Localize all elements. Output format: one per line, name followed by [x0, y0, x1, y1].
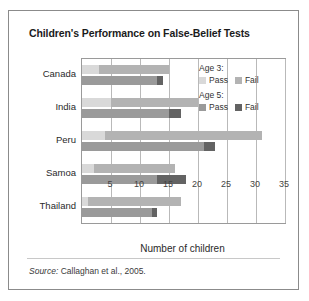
legend-label-age3-pass: Pass — [209, 75, 228, 85]
legend-swatch-age5-fail — [235, 104, 242, 111]
legend-item-age5-pass: Pass — [199, 102, 228, 112]
bar-segment-india-age5-pass — [82, 109, 169, 118]
bar-segment-canada-age3-fail — [99, 65, 169, 74]
x-axis-title: Number of children — [81, 243, 284, 254]
bar-segment-peru-age5-fail — [204, 142, 216, 151]
legend-item-age5-fail: Fail — [235, 102, 259, 112]
legend-group-age5: Age 5: Pass Fail — [199, 90, 266, 112]
legend-row-age3: Pass Fail — [199, 75, 266, 85]
category-label-india: India — [55, 101, 76, 112]
bar-segment-samoa-age5-pass — [82, 175, 157, 184]
x-tick-label-30: 30 — [250, 179, 260, 189]
source-note: Source: Callaghan et al., 2005. — [29, 266, 146, 276]
legend-swatch-age3-fail — [235, 77, 242, 84]
legend-heading-age5: Age 5: — [199, 90, 266, 100]
legend-item-age3-fail: Fail — [235, 75, 259, 85]
bar-segment-peru-age3-pass — [82, 131, 105, 140]
bar-segment-india-age3-pass — [82, 98, 111, 107]
bar-segment-canada-age3-pass — [82, 65, 99, 74]
x-tick-label-15: 15 — [163, 179, 173, 189]
legend-label-age3-fail: Fail — [245, 75, 259, 85]
legend-heading-age3: Age 3: — [199, 63, 266, 73]
category-label-thailand: Thailand — [40, 200, 76, 211]
plot-wrapper: Canada India Peru Samoa Thailand 5101520… — [9, 11, 300, 291]
legend-swatch-age3-pass — [199, 77, 206, 84]
legend-group-age3: Age 3: Pass Fail — [199, 63, 266, 85]
bar-segment-india-age5-fail — [169, 109, 181, 118]
bar-segment-india-age3-fail — [111, 98, 198, 107]
bar-segment-thailand-age5-fail — [152, 208, 158, 217]
category-label-canada: Canada — [43, 68, 76, 79]
x-tick-label-25: 25 — [221, 179, 231, 189]
bar-segment-canada-age5-pass — [82, 76, 157, 85]
category-label-peru: Peru — [56, 134, 76, 145]
legend-label-age5-pass: Pass — [209, 102, 228, 112]
chart-legend: Age 3: Pass Fail Age 5: — [199, 63, 266, 117]
bar-segment-samoa-age3-pass — [82, 164, 94, 173]
source-prefix: Source: — [29, 266, 58, 276]
legend-swatch-age5-pass — [199, 104, 206, 111]
x-tick-label-10: 10 — [134, 179, 144, 189]
bar-segment-peru-age5-pass — [82, 142, 204, 151]
bar-segment-peru-age3-fail — [105, 131, 262, 140]
legend-label-age5-fail: Fail — [245, 102, 259, 112]
source-text: Callaghan et al., 2005. — [61, 266, 146, 276]
bar-segment-thailand-age5-pass — [82, 208, 152, 217]
legend-item-age3-pass: Pass — [199, 75, 228, 85]
figure-frame: Children's Performance on False-Belief T… — [8, 10, 299, 290]
bar-segment-canada-age5-fail — [157, 76, 163, 85]
bar-segment-samoa-age3-fail — [94, 164, 175, 173]
footer-divider — [27, 258, 280, 259]
category-label-samoa: Samoa — [46, 167, 76, 178]
x-tick-label-20: 20 — [192, 179, 202, 189]
x-tick-label-5: 5 — [107, 179, 112, 189]
legend-row-age5: Pass Fail — [199, 102, 266, 112]
gridline-35 — [285, 59, 286, 223]
bar-segment-thailand-age3-fail — [88, 197, 181, 206]
x-tick-label-35: 35 — [279, 179, 289, 189]
